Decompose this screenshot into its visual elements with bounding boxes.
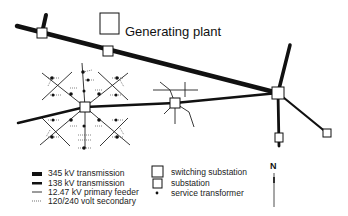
legend-label-substation: substation xyxy=(171,178,210,188)
legend-138kv-swatch xyxy=(32,182,42,185)
legend-345kv-swatch xyxy=(32,172,42,176)
generating-plant-label: Generating plant xyxy=(125,24,221,39)
substation-lower-right-2-icon xyxy=(323,129,331,137)
substation-lower-right-1-icon xyxy=(275,133,283,142)
generating-plant-icon xyxy=(100,13,119,34)
legend-label-switching-substation: switching substation xyxy=(171,167,247,177)
substation-upper-left-icon xyxy=(37,28,47,38)
switching-substation-right-icon xyxy=(272,87,284,99)
legend-switching-substation-swatch xyxy=(152,166,163,177)
legend-label-service-transformer: service transformer xyxy=(171,188,244,198)
north-label: N xyxy=(270,161,277,171)
substation-grid-center-icon xyxy=(80,102,90,112)
legend-label-secondary: 120/240 volt secondary xyxy=(48,196,136,206)
legend-service-transformer-swatch xyxy=(156,192,159,195)
legend-substation-swatch xyxy=(153,179,162,188)
legend-label-345kv: 345 kV transmission xyxy=(48,168,125,178)
substations xyxy=(37,28,331,142)
plant-substation-icon xyxy=(103,46,113,56)
substation-middle-icon xyxy=(170,98,180,108)
